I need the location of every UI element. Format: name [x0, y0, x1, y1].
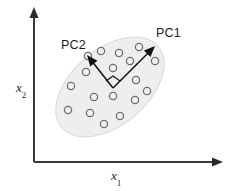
pca-diagram: x2 x1 PC1 PC2 [0, 0, 230, 191]
data-point [82, 68, 89, 75]
data-point [97, 47, 104, 54]
pc2-label: PC2 [61, 39, 86, 52]
data-point [151, 57, 158, 64]
data-point [131, 96, 138, 103]
data-point [109, 92, 116, 99]
data-point [100, 120, 107, 127]
data-point [109, 64, 116, 71]
x-axis-label-text: x [111, 168, 117, 183]
x-axis-label: x1 [111, 169, 121, 186]
data-point [135, 43, 142, 50]
pc1-label: PC1 [156, 27, 181, 40]
data-point [90, 93, 97, 100]
x-axis-arrowhead [212, 158, 223, 167]
x-axis-group [34, 158, 223, 167]
data-point [64, 106, 71, 113]
y-axis-arrowhead [30, 7, 39, 18]
data-point [143, 87, 150, 94]
data-point [132, 76, 139, 83]
data-point [116, 112, 123, 119]
y-axis-label: x2 [16, 81, 26, 98]
y-axis-group [30, 7, 39, 162]
data-point [86, 109, 93, 116]
data-point [115, 49, 122, 56]
y-axis-label-subscript: 2 [22, 90, 27, 100]
data-point [126, 57, 133, 64]
data-point [67, 82, 74, 89]
y-axis-label-text: x [16, 80, 22, 95]
diagram-canvas [0, 0, 230, 191]
x-axis-label-subscript: 1 [117, 178, 122, 188]
